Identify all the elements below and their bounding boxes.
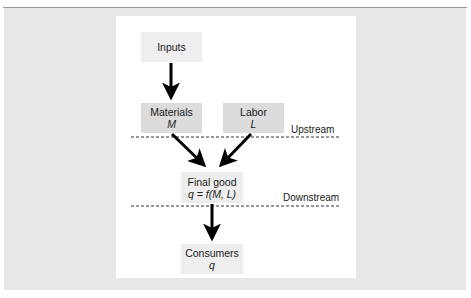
node-final-good-label: Final good: [187, 176, 236, 188]
node-materials: Materials M: [141, 103, 202, 133]
upstream-label: Upstream: [291, 124, 334, 135]
downstream-label: Downstream: [283, 192, 339, 203]
node-labor-label: Labor: [240, 106, 267, 118]
node-consumers: Consumers q: [181, 244, 243, 274]
node-materials-symbol: M: [167, 118, 176, 130]
node-consumers-symbol: q: [209, 259, 215, 271]
node-final-good-formula: q = f(M, L): [188, 188, 236, 200]
arrow-labor-to-final-good: [222, 134, 251, 164]
node-labor-symbol: L: [251, 118, 257, 130]
node-inputs: Inputs: [141, 32, 202, 62]
arrow-materials-to-final-good: [172, 134, 203, 164]
node-final-good: Final good q = f(M, L): [181, 172, 243, 203]
node-labor: Labor L: [223, 103, 284, 133]
node-consumers-label: Consumers: [185, 247, 239, 259]
node-materials-label: Materials: [150, 106, 193, 118]
node-inputs-label: Inputs: [157, 41, 186, 53]
